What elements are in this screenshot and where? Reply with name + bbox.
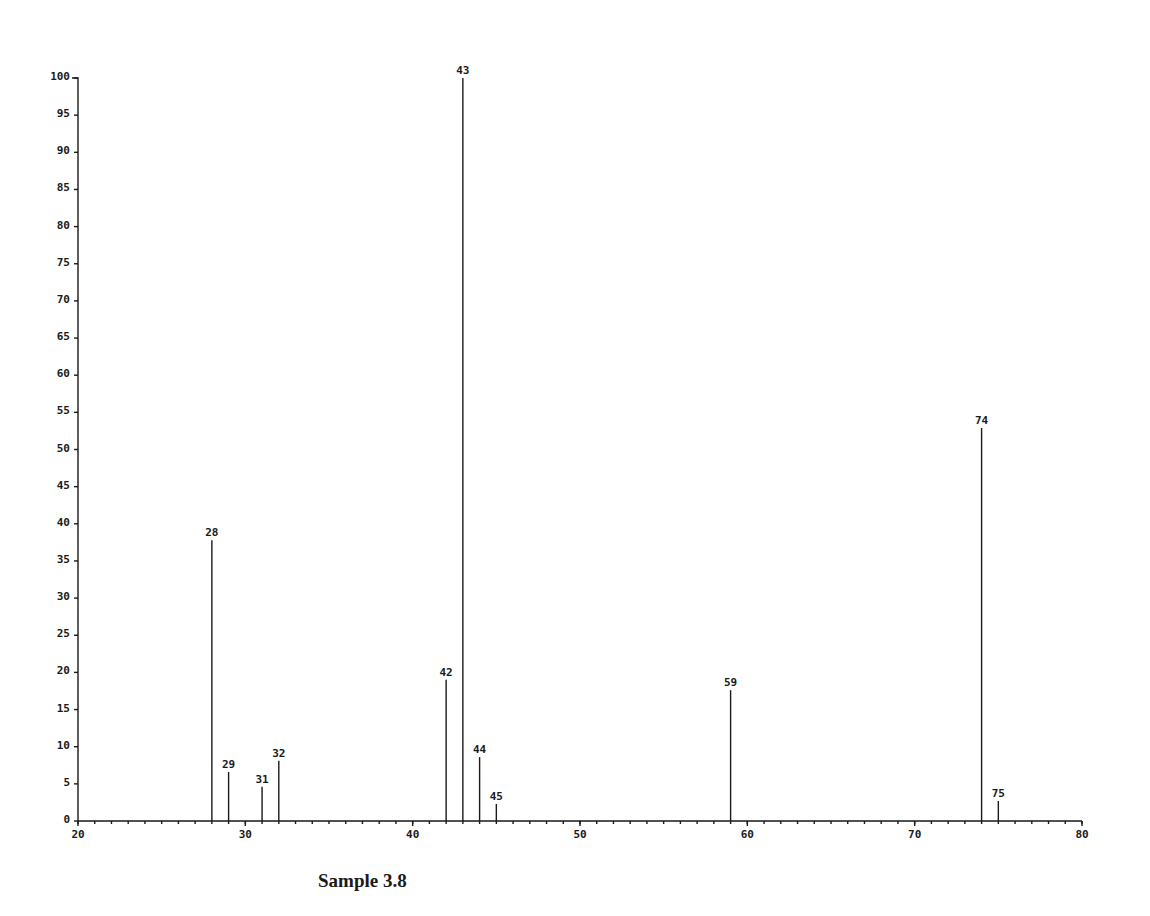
- y-tick-label: 95: [57, 107, 70, 120]
- y-tick-label: 65: [57, 330, 70, 343]
- x-tick-label: 80: [1075, 828, 1088, 841]
- x-tick-label: 30: [239, 828, 252, 841]
- y-tick-label: 100: [50, 70, 70, 83]
- peak-label: 75: [992, 787, 1005, 800]
- chart-axes: [72, 78, 1082, 821]
- y-tick-label: 10: [57, 739, 70, 752]
- y-tick-label: 70: [57, 293, 70, 306]
- peak-label: 29: [222, 758, 235, 771]
- y-tick-label: 30: [57, 590, 70, 603]
- y-tick-label: 50: [57, 442, 70, 455]
- y-tick-label: 15: [57, 702, 70, 715]
- y-tick-label: 35: [57, 553, 70, 566]
- y-tick-label: 5: [63, 776, 70, 789]
- peak-label: 31: [255, 773, 269, 786]
- y-tick-label: 20: [57, 664, 70, 677]
- peak-label: 59: [724, 676, 737, 689]
- x-tick-label: 70: [908, 828, 921, 841]
- peak-label: 45: [490, 790, 503, 803]
- x-tick-label: 20: [71, 828, 84, 841]
- y-tick-label: 75: [57, 256, 70, 269]
- x-axis-ticks: 20304050607080: [71, 821, 1088, 841]
- x-tick-label: 50: [573, 828, 586, 841]
- y-tick-label: 0: [63, 813, 70, 826]
- y-tick-label: 85: [57, 181, 70, 194]
- chart-caption: Sample 3.8: [318, 870, 407, 892]
- x-tick-label: 40: [406, 828, 419, 841]
- axis-frame: [72, 78, 1082, 821]
- y-tick-label: 90: [57, 144, 70, 157]
- y-tick-label: 60: [57, 367, 70, 380]
- y-axis-ticks: 0510152025303540455055606570758085909510…: [50, 70, 78, 826]
- y-tick-label: 55: [57, 404, 70, 417]
- y-tick-label: 40: [57, 516, 70, 529]
- y-tick-label: 25: [57, 627, 70, 640]
- spectrum-peaks: 2829313242434445597475: [205, 64, 1005, 821]
- peak-label: 32: [272, 747, 285, 760]
- peak-label: 43: [456, 64, 469, 77]
- peak-label: 74: [975, 414, 989, 427]
- x-tick-label: 60: [741, 828, 754, 841]
- peak-label: 28: [205, 526, 218, 539]
- y-tick-label: 45: [57, 479, 70, 492]
- y-tick-label: 80: [57, 219, 70, 232]
- peak-label: 42: [440, 666, 453, 679]
- peak-label: 44: [473, 743, 487, 756]
- mass-spectrum-chart: 0510152025303540455055606570758085909510…: [0, 0, 1150, 916]
